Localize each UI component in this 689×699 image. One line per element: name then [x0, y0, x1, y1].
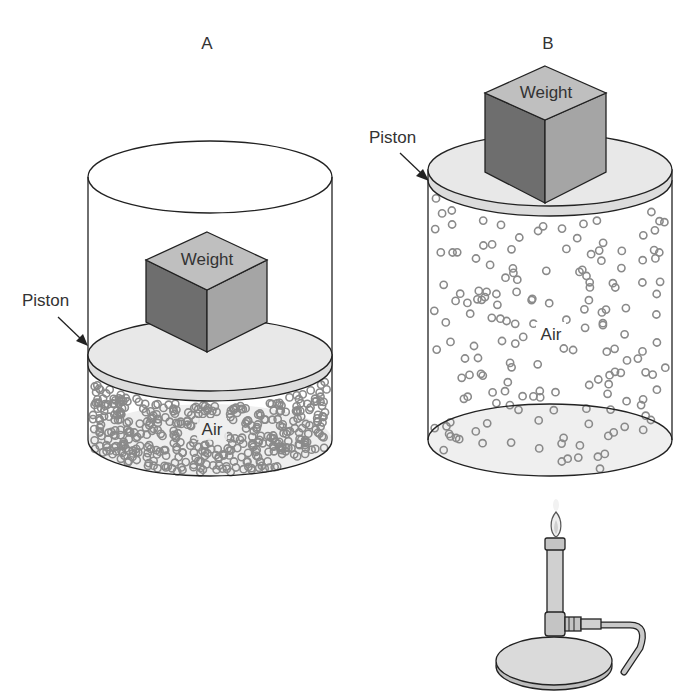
diagram-canvas: A W [0, 0, 689, 699]
piston-b-arrow [400, 153, 429, 181]
panel-b: B Weight [369, 34, 672, 690]
air-a-label: Air [202, 420, 223, 439]
air-b-label: Air [541, 325, 562, 344]
panel-a: A W [22, 34, 332, 476]
cylinder-a-top-rim [88, 141, 332, 213]
gas-inlet [565, 617, 581, 631]
piston-diagram: A W [0, 0, 689, 699]
piston-a-arrow [58, 317, 88, 346]
bunsen-burner [496, 499, 642, 690]
piston-b-label: Piston [369, 128, 416, 147]
panel-a-label: A [201, 34, 213, 53]
weight-a-label: Weight [181, 250, 234, 269]
burner-nozzle [545, 538, 565, 550]
piston-a-label: Piston [22, 291, 69, 310]
panel-b-label: B [542, 34, 553, 53]
weight-b-label: Weight [520, 83, 573, 102]
